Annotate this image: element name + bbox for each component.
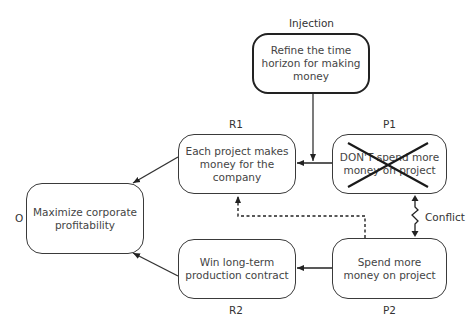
dashed-arrow-p2-to-r1 xyxy=(238,196,365,238)
conflict-zigzag xyxy=(412,197,418,235)
r2-text: Win long-term production contract xyxy=(185,256,289,282)
r2-label: R2 xyxy=(229,304,243,316)
conflict-label: Conflict xyxy=(425,211,465,223)
p2-box: Spend more money on project xyxy=(332,238,447,299)
p1-label: P1 xyxy=(383,118,396,130)
r1-label: R1 xyxy=(229,118,243,130)
r1-box: Each project makes money for the company xyxy=(178,134,296,194)
p2-text: Spend more money on project xyxy=(339,256,440,282)
objective-text: Maximize corporate profitability xyxy=(33,206,137,232)
arrow-r2-to-o xyxy=(133,253,178,276)
r1-text: Each project makes money for the company xyxy=(185,145,289,184)
objective-box: Maximize corporate profitability xyxy=(26,183,144,254)
injection-label: Injection xyxy=(289,17,334,29)
injection-box: Refine the time horizon for making money xyxy=(252,33,370,94)
r2-box: Win long-term production contract xyxy=(178,239,296,299)
cross-out-icon xyxy=(346,141,430,189)
arrow-r1-to-o xyxy=(133,157,178,183)
injection-text: Refine the time horizon for making money xyxy=(260,44,362,83)
p2-label: P2 xyxy=(383,304,396,316)
objective-label: O xyxy=(15,212,23,224)
